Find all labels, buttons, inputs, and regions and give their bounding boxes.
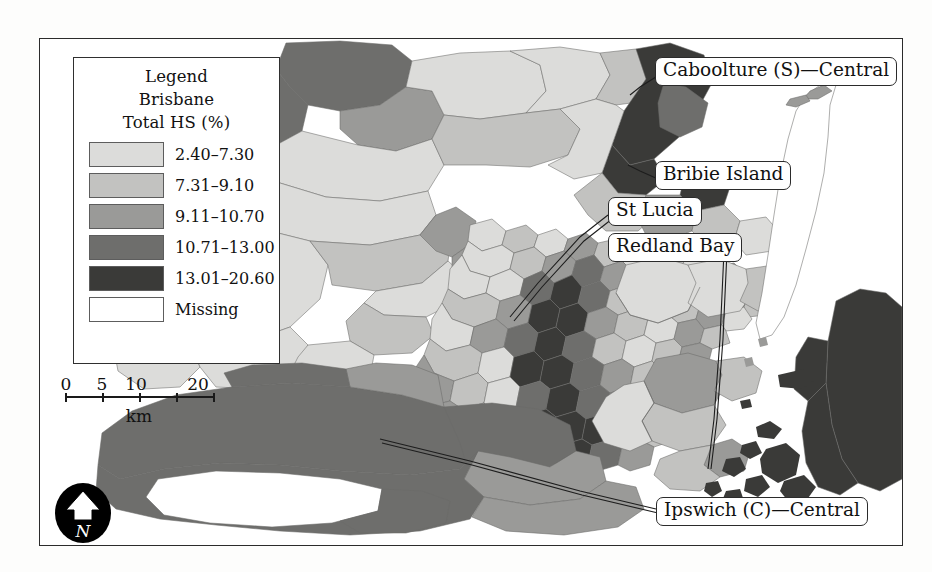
north-arrow-letter: N — [75, 521, 92, 541]
callout-caboolture[interactable]: Caboolture (S)—Central — [655, 57, 897, 86]
scale-tick-mark — [139, 393, 141, 402]
scale-tick-mark — [102, 393, 104, 402]
callout-caboolture-label: Caboolture (S)—Central — [663, 59, 889, 80]
scale-bar-line — [65, 396, 215, 405]
callout-st-lucia[interactable]: St Lucia — [608, 197, 702, 226]
legend-swatch — [89, 204, 164, 229]
scale-tick-0: 0 — [61, 374, 72, 394]
scale-tick-mark — [65, 393, 67, 402]
legend-swatch — [89, 297, 164, 322]
scale-tick-5: 5 — [97, 374, 108, 394]
legend-box: Legend Brisbane Total HS (%) 2.40–7.30 7… — [73, 57, 280, 364]
callout-redland-bay[interactable]: Redland Bay — [608, 233, 742, 262]
legend-swatch-label: 2.40–7.30 — [175, 145, 254, 164]
legend-item: 13.01–20.60 — [89, 263, 279, 294]
callout-bribie-island[interactable]: Bribie Island — [655, 161, 791, 190]
scale-tick-mark — [213, 393, 215, 402]
legend-swatch — [89, 173, 164, 198]
legend-swatch — [89, 266, 164, 291]
scale-bar: 0 5 10 20 km — [60, 374, 250, 426]
callout-st-lucia-label: St Lucia — [616, 199, 694, 220]
legend-swatch-label: 9.11–10.70 — [175, 207, 264, 226]
north-arrow-icon: N — [48, 479, 118, 546]
legend-swatch — [89, 142, 164, 167]
map-frame: .p{stroke:#6a6a68;stroke-width:.55;} .c1… — [39, 38, 903, 546]
scale-tick-20: 20 — [187, 374, 209, 394]
scale-tick-10: 10 — [125, 374, 147, 394]
legend-swatch-label: 10.71–13.00 — [175, 238, 275, 257]
legend-item: 9.11–10.70 — [89, 201, 279, 232]
legend-title-line-2: Brisbane — [74, 89, 279, 112]
scale-bar-ticks: 0 5 10 20 — [60, 374, 250, 396]
legend-item: 10.71–13.00 — [89, 232, 279, 263]
legend-swatch-label: 7.31–9.10 — [175, 176, 254, 195]
legend-title-line-1: Legend — [74, 66, 279, 89]
legend-swatch-label: Missing — [175, 300, 239, 319]
legend-swatch — [89, 235, 164, 260]
scale-bar-unit: km — [60, 406, 218, 426]
callout-redland-bay-label: Redland Bay — [616, 235, 734, 256]
callout-ipswich-label: Ipswich (C)—Central — [664, 499, 860, 520]
legend-item: 7.31–9.10 — [89, 170, 279, 201]
callout-bribie-island-label: Bribie Island — [663, 163, 783, 184]
legend-class-list: 2.40–7.30 7.31–9.10 9.11–10.70 10.71–13.… — [74, 139, 279, 325]
legend-title-line-3: Total HS (%) — [74, 112, 279, 135]
legend-swatch-label: 13.01–20.60 — [175, 269, 275, 288]
north-arrow: N — [48, 479, 118, 546]
legend-item: 2.40–7.30 — [89, 139, 279, 170]
callout-ipswich[interactable]: Ipswich (C)—Central — [656, 497, 868, 526]
scale-tick-mark — [176, 393, 178, 402]
legend-item: Missing — [89, 294, 279, 325]
map-figure: .p{stroke:#6a6a68;stroke-width:.55;} .c1… — [0, 0, 932, 572]
